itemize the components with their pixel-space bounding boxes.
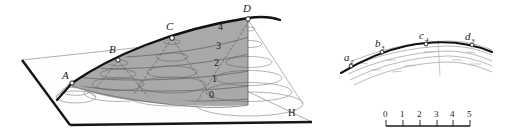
scale-label-3: 3 (434, 109, 439, 119)
scale-label-4: 4 (450, 109, 455, 119)
contour-label-2: 2 (214, 57, 219, 68)
label-point-D: D (242, 2, 251, 14)
map-tick-vertical (438, 40, 440, 76)
label-map-point-a-sub: 2 (350, 58, 354, 66)
label-point-A: A (61, 69, 69, 81)
point-marker-B (116, 58, 120, 62)
map-contour-5 (354, 62, 492, 85)
scale-bar: 0 1 2 3 4 5 (383, 109, 472, 126)
point-marker-D (246, 17, 251, 22)
point-marker-A (70, 81, 74, 85)
map-tick-8 (466, 52, 476, 53)
map-contour-4 (350, 56, 492, 80)
map-tick-1 (360, 63, 368, 64)
label-plane-h: H (288, 107, 296, 118)
scale-label-0: 0 (383, 109, 388, 119)
map-tick-4 (392, 71, 402, 72)
figure-svg: A B C D 4 3 2 1 0 H (0, 0, 512, 137)
label-point-B: B (109, 43, 116, 55)
label-map-point-c-sub: 4 (425, 36, 429, 44)
cone-side-d-right (249, 21, 303, 104)
point-marker-C (170, 36, 175, 41)
contour-label-4: 4 (218, 21, 223, 32)
scale-label-5: 5 (467, 109, 472, 119)
label-map-point-b-sub: 3 (380, 44, 385, 52)
scale-label-1: 1 (400, 109, 405, 119)
label-map-point-c: c (419, 29, 424, 41)
map-contour-family (348, 41, 492, 85)
label-point-C: C (166, 20, 174, 32)
figure-root: A B C D 4 3 2 1 0 H (0, 0, 512, 137)
scale-label-2: 2 (417, 109, 422, 119)
map-crest-line (341, 42, 492, 73)
right-panel-map: a 2 b 3 c 4 d 3 0 1 2 3 (341, 29, 492, 126)
contour-label-3: 3 (216, 40, 221, 51)
contour-label-1: 1 (212, 73, 217, 84)
contour-label-0: 0 (209, 89, 214, 100)
label-map-point-d-sub: 3 (470, 37, 475, 45)
